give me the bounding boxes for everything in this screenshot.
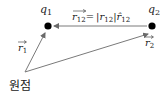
r12-equation-label: r12=|r12|r̂12 [72,10,130,24]
r2-label: r2 [145,36,154,50]
q1-label: q1 [40,3,52,17]
q1-charge-dot [44,22,51,29]
origin-label: 원점 [9,79,31,93]
r2-arrow [25,34,148,72]
r1-label: r1 [18,41,27,55]
q2-label: q2 [148,3,160,17]
vector-diagram: q1 q2 r12=|r12|r̂12 r1 r2 원점 [0,0,166,100]
r1-arrow [25,33,45,72]
svg-text:r12=|r12|r̂12: r12=|r12|r̂12 [72,11,130,24]
svg-text:r1: r1 [18,42,27,55]
q2-charge-dot [148,22,155,29]
svg-text:r2: r2 [145,37,154,50]
